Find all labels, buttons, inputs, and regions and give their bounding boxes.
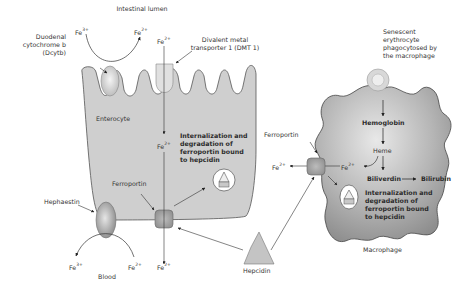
fe3-blood: Fe3+	[69, 262, 83, 271]
erythrocyte-label: Senescent erythrocyte phagocytosed by th…	[383, 28, 437, 59]
enterocyte-label: Enterocyte	[96, 115, 130, 123]
fe3-lumen: Fe3+	[75, 27, 89, 36]
macrophage-label: Macrophage	[363, 246, 402, 254]
hephaestin-protein	[96, 202, 116, 238]
macrophage-internalization-label: Internalization and degradation of ferro…	[365, 189, 433, 220]
enterocyte-internalization-label: Internalization and degradation of ferro…	[180, 132, 248, 163]
fe2-cytosol: Fe2+	[157, 141, 171, 150]
hephaestin-label: Hephaestin	[44, 198, 80, 206]
heme-label: Heme	[373, 147, 392, 155]
hepcidin-triangle	[244, 232, 274, 264]
intestinal-lumen-label: Intestinal lumen	[112, 5, 172, 13]
hepcidin-label: Hepcidin	[243, 267, 271, 275]
fe2-blood-ferroportin: Fe2+	[157, 262, 171, 271]
fe2-macrophage-out: Fe2+	[272, 162, 286, 171]
biliverdin-label: Biliverdin	[367, 175, 401, 183]
enterocyte-ferroportin-label: Ferroportin	[112, 180, 147, 188]
blood-label: Blood	[92, 273, 122, 281]
dcytb-label: Duodenal cytochrome b (Dcytb)	[8, 33, 66, 57]
bilirubin-label: Bilirubin	[421, 175, 451, 183]
fe2-blood-hephaestin: Fe2+	[128, 262, 142, 271]
macrophage-ferroportin	[307, 158, 325, 175]
dcytb-reduction-arc	[86, 34, 140, 61]
macrophage-ferroportin-label: Ferroportin	[264, 131, 299, 139]
fe2-lumen-dcytb: Fe2+	[134, 27, 148, 36]
fe2-macrophage-in: Fe2+	[341, 162, 355, 171]
dmt1-label: Divalent metal transporter 1 (DMT 1)	[186, 36, 264, 52]
dmt1-protein	[156, 64, 173, 93]
fe2-lumen-dmt1: Fe2+	[157, 36, 171, 45]
hemoglobin-label: Hemoglobin	[362, 119, 405, 127]
